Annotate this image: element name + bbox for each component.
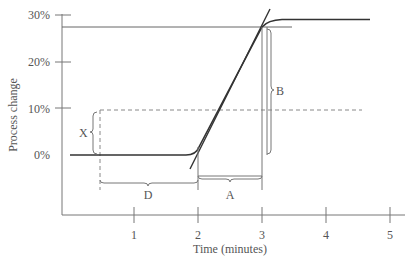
tangent-line bbox=[190, 9, 270, 169]
x-tick-label-5: 5 bbox=[387, 228, 393, 242]
brace-d bbox=[100, 180, 198, 186]
annot-d: D bbox=[144, 188, 153, 202]
process-response-chart: 30% 20% 10% 0% 1 2 3 4 5 Time (minutes) … bbox=[0, 0, 409, 264]
y-tick-label-0: 0% bbox=[34, 148, 50, 162]
annot-x: X bbox=[79, 126, 88, 140]
brace-b bbox=[267, 29, 274, 154]
brace-a bbox=[198, 176, 262, 182]
annot-a: A bbox=[226, 188, 235, 202]
annot-b: B bbox=[276, 84, 284, 98]
brace-x bbox=[90, 112, 97, 154]
x-tick-label-3: 3 bbox=[259, 228, 265, 242]
x-tick-label-2: 2 bbox=[195, 228, 201, 242]
y-tick-label-10: 10% bbox=[28, 102, 50, 116]
x-tick-label-4: 4 bbox=[323, 228, 329, 242]
x-tick-label-1: 1 bbox=[131, 228, 137, 242]
y-tick-label-20: 20% bbox=[28, 55, 50, 69]
x-axis-title: Time (minutes) bbox=[193, 242, 267, 256]
y-axis-title: Process change bbox=[6, 78, 20, 152]
step-input-dashed bbox=[100, 110, 362, 190]
y-tick-label-30: 30% bbox=[28, 8, 50, 22]
reference-verticals bbox=[198, 27, 267, 190]
process-response-curve bbox=[70, 20, 370, 156]
